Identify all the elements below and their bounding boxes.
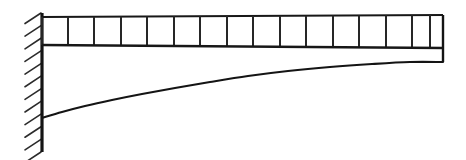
diagram-canvas bbox=[0, 0, 466, 160]
cantilever-beam-figure bbox=[0, 0, 466, 160]
figure-background bbox=[0, 0, 466, 160]
